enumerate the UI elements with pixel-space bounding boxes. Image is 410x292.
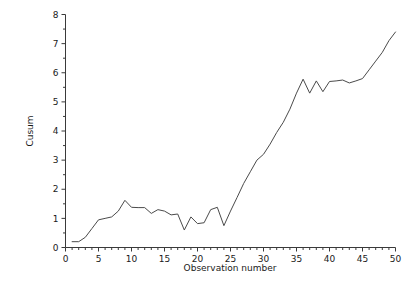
series-line [72,32,395,242]
x-axis-title: Observation number [184,263,277,273]
y-tick-label: 4 [53,126,59,136]
y-tick-label: 8 [53,10,59,20]
y-tick-label: 7 [53,39,59,49]
y-tick-label: 3 [53,155,59,165]
y-tick-label: 2 [53,184,59,194]
y-tick-label: 0 [53,243,59,253]
y-axis: 012345678 [53,10,66,253]
x-tick-label: 25 [225,254,236,264]
x-tick-label: 45 [357,254,368,264]
x-tick-label: 35 [291,254,302,264]
x-tick-label: 5 [96,254,102,264]
y-tick-label: 6 [53,68,59,78]
chart-canvas: 012345678 05101520253035404550 Observati… [0,0,410,292]
x-tick-label: 0 [63,254,69,264]
x-tick-label: 40 [324,254,336,264]
y-tick-label: 1 [53,214,59,224]
x-tick-label: 20 [192,254,204,264]
x-axis: 05101520253035404550 [63,248,402,264]
y-tick-label: 5 [53,97,59,107]
x-tick-label: 10 [126,254,138,264]
x-tick-label: 15 [159,254,170,264]
y-axis-title: Cusum [25,115,35,146]
cut-off-footer-text [0,286,410,292]
data-series [72,32,395,242]
x-tick-label: 50 [390,254,402,264]
x-tick-label: 30 [258,254,270,264]
cusum-chart: 012345678 05101520253035404550 Observati… [0,0,410,292]
